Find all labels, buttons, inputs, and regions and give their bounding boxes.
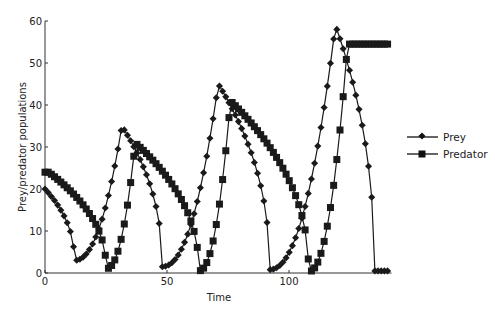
series-layer	[41, 26, 391, 275]
y-tick-label: 30	[29, 142, 42, 153]
legend-item-predator: Predator	[407, 148, 488, 160]
diamond-marker-icon	[418, 132, 425, 139]
x-axis-label: Time	[206, 292, 231, 303]
x-tick-label: 0	[42, 276, 48, 287]
legend-item-prey: Prey	[407, 131, 466, 143]
series-markers-predator	[42, 41, 392, 275]
x-tick-label: 50	[161, 276, 174, 287]
legend-label-prey: Prey	[443, 131, 466, 143]
y-tick-label: 10	[29, 226, 42, 237]
square-marker-icon	[419, 151, 426, 158]
y-tick-label: 40	[29, 100, 42, 111]
y-tick-label: 50	[29, 58, 42, 69]
series-markers-prey	[41, 26, 391, 275]
y-axis-label: Prey/predator populations	[17, 82, 28, 212]
predator-prey-chart: 0102030405060050100 Prey Predator Time P…	[0, 0, 495, 313]
legend-label-predator: Predator	[443, 148, 488, 160]
y-tick-label: 20	[29, 184, 42, 195]
legend: Prey Predator	[407, 131, 488, 160]
x-tick-label: 100	[279, 276, 298, 287]
y-tick-label: 60	[29, 16, 42, 27]
